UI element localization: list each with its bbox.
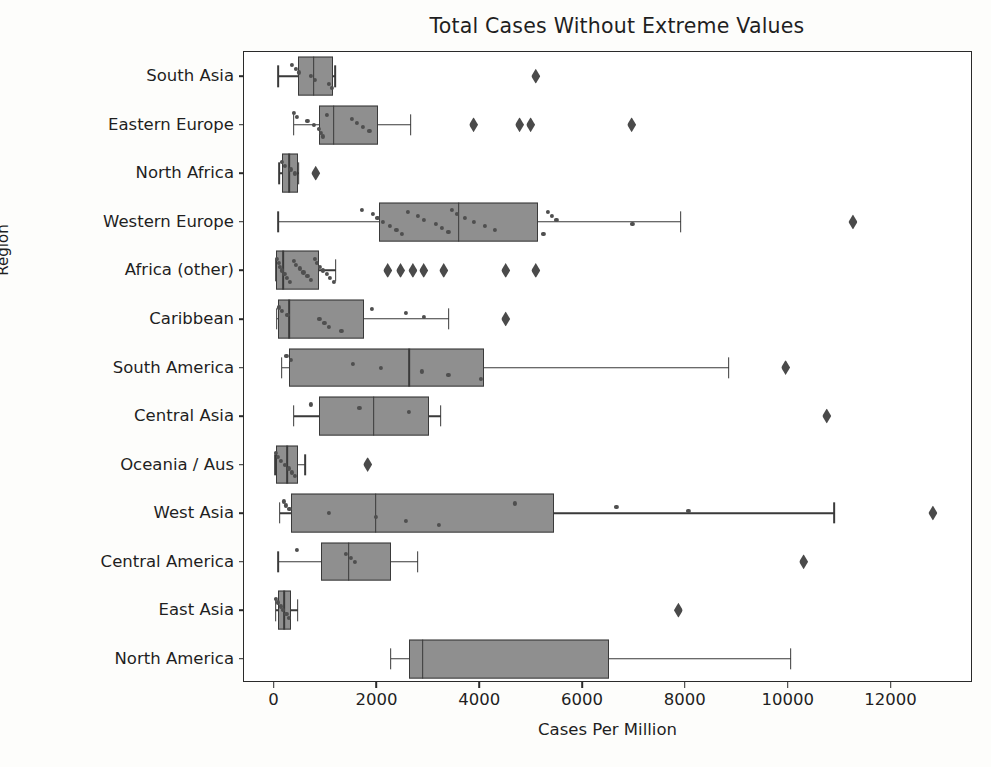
plot-canvas: [244, 52, 971, 681]
y-tick-label-western-europe: Western Europe: [103, 211, 234, 230]
cap-high: [680, 211, 682, 232]
data-point: [305, 119, 309, 123]
outlier-marker: [848, 214, 857, 229]
data-point: [332, 280, 336, 284]
plot-area: [243, 51, 972, 682]
whisker-low: [280, 512, 291, 514]
data-point: [312, 123, 316, 127]
data-point: [630, 222, 634, 226]
cap-low: [281, 357, 283, 378]
whisker-low: [282, 367, 290, 369]
cap-high: [335, 260, 337, 281]
x-tick-label-4000: 4000: [458, 690, 500, 709]
outlier-marker: [928, 506, 937, 521]
cap-low: [278, 211, 280, 232]
y-tick-mark: [239, 609, 244, 611]
median-line: [313, 57, 315, 96]
x-tick-mark: [273, 682, 275, 688]
median-line: [348, 542, 350, 581]
cap-high: [417, 551, 419, 572]
y-tick-mark: [239, 415, 244, 417]
data-point: [370, 212, 374, 216]
y-tick-label-south-asia: South Asia: [146, 66, 234, 85]
cap-low: [279, 163, 281, 184]
median-line: [289, 300, 291, 339]
data-point: [330, 86, 334, 90]
cap-low: [278, 66, 280, 87]
box: [298, 57, 333, 96]
data-point: [550, 214, 554, 218]
outlier-marker: [515, 117, 524, 132]
y-tick-label-north-america: North America: [115, 648, 234, 667]
whisker-low: [278, 221, 379, 223]
outlier-marker: [627, 117, 636, 132]
data-point: [308, 402, 312, 406]
box: [319, 105, 378, 144]
y-tick-label-south-america: South America: [113, 357, 234, 376]
whisker-low: [278, 561, 320, 563]
y-tick-mark: [239, 173, 244, 175]
y-tick-mark: [239, 75, 244, 77]
cap-high: [833, 502, 835, 523]
outlier-marker: [531, 263, 540, 278]
y-tick-label-central-asia: Central Asia: [134, 406, 234, 425]
cap-high: [298, 163, 300, 184]
outlier-marker: [383, 263, 392, 278]
whisker-high: [554, 512, 834, 514]
cap-low: [390, 648, 392, 669]
median-line: [458, 202, 460, 241]
x-tick-label-10000: 10000: [761, 690, 814, 709]
y-tick-mark: [239, 512, 244, 514]
data-point: [284, 354, 288, 358]
x-axis-label: Cases Per Million: [243, 720, 972, 739]
cap-high: [410, 114, 412, 135]
outlier-marker: [363, 457, 372, 472]
data-point: [541, 231, 545, 235]
outlier-marker: [526, 117, 535, 132]
y-tick-mark: [239, 561, 244, 563]
data-point: [289, 63, 293, 67]
x-tick-mark: [787, 682, 789, 688]
outlier-marker: [439, 263, 448, 278]
outlier-marker: [501, 311, 510, 326]
whisker-low: [391, 658, 409, 660]
median-line: [408, 348, 410, 387]
whisker-low: [294, 415, 319, 417]
box: [289, 348, 483, 387]
outlier-marker: [469, 117, 478, 132]
cap-high: [448, 308, 450, 329]
cap-high: [790, 648, 792, 669]
outlier-marker: [531, 69, 540, 84]
outlier-marker: [822, 409, 831, 424]
cap-high: [334, 66, 336, 87]
y-tick-mark: [239, 658, 244, 660]
median-line: [422, 639, 424, 678]
outlier-marker: [419, 263, 428, 278]
y-tick-label-west-asia: West Asia: [154, 503, 234, 522]
cap-low: [293, 405, 295, 426]
y-tick-label-north-africa: North Africa: [136, 163, 234, 182]
x-tick-label-12000: 12000: [864, 690, 917, 709]
y-tick-label-africa-other: Africa (other): [125, 260, 234, 279]
outlier-marker: [311, 166, 320, 181]
cap-high: [440, 405, 442, 426]
whisker-high: [364, 318, 449, 320]
y-tick-label-oceania-aus: Oceania / Aus: [120, 454, 234, 473]
outlier-marker: [501, 263, 510, 278]
y-tick-mark: [239, 124, 244, 126]
data-point: [614, 505, 618, 509]
cap-high: [728, 357, 730, 378]
data-point: [295, 115, 299, 119]
x-tick-label-6000: 6000: [561, 690, 603, 709]
x-tick-mark: [890, 682, 892, 688]
y-tick-mark: [239, 221, 244, 223]
whisker-high: [609, 658, 791, 660]
data-point: [370, 307, 374, 311]
median-line: [375, 494, 377, 533]
box: [409, 639, 609, 678]
y-tick-label-caribbean: Caribbean: [149, 308, 234, 327]
outlier-marker: [408, 263, 417, 278]
median-line: [289, 154, 291, 193]
whisker-high: [378, 124, 411, 126]
data-point: [404, 311, 408, 315]
